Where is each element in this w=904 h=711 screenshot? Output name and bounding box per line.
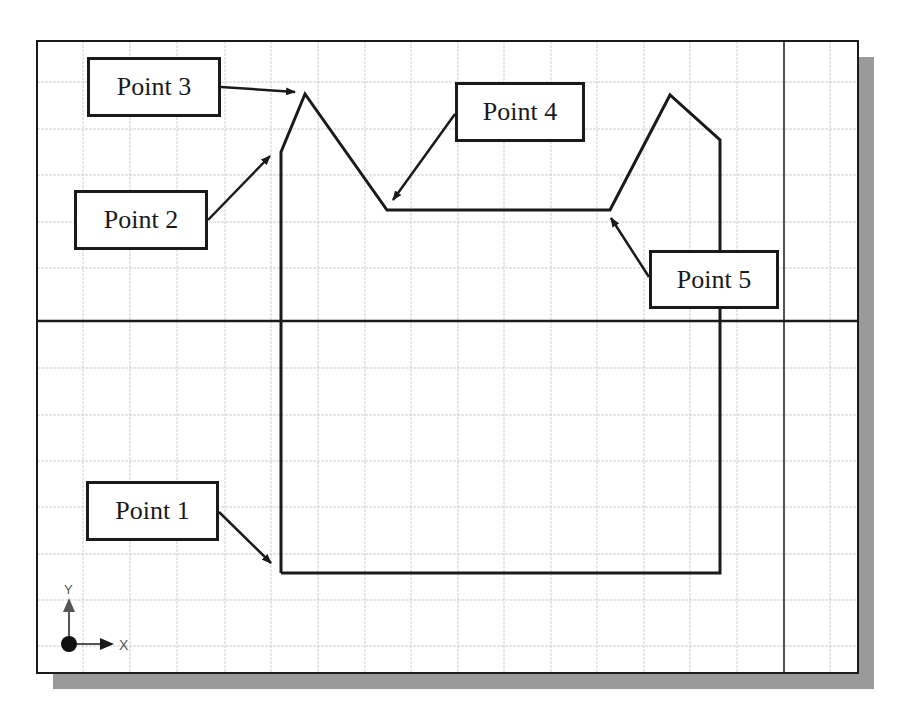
ucs-y-label: Y: [64, 582, 73, 597]
label-point-3-text: Point 3: [117, 72, 191, 102]
label-point-1-text: Point 1: [115, 496, 189, 526]
label-point-4-text: Point 4: [483, 97, 557, 127]
label-point-4: Point 4: [455, 82, 585, 142]
ucs-origin-icon: [61, 636, 77, 652]
label-point-5-text: Point 5: [677, 265, 751, 295]
label-point-2: Point 2: [74, 190, 208, 250]
drawing-background: [37, 41, 858, 673]
ucs-x-label: X: [119, 637, 129, 653]
label-point-1: Point 1: [86, 481, 219, 541]
label-point-2-text: Point 2: [104, 205, 178, 235]
drawing-area: [37, 41, 858, 673]
label-point-5: Point 5: [649, 250, 779, 309]
label-point-3: Point 3: [87, 57, 221, 117]
